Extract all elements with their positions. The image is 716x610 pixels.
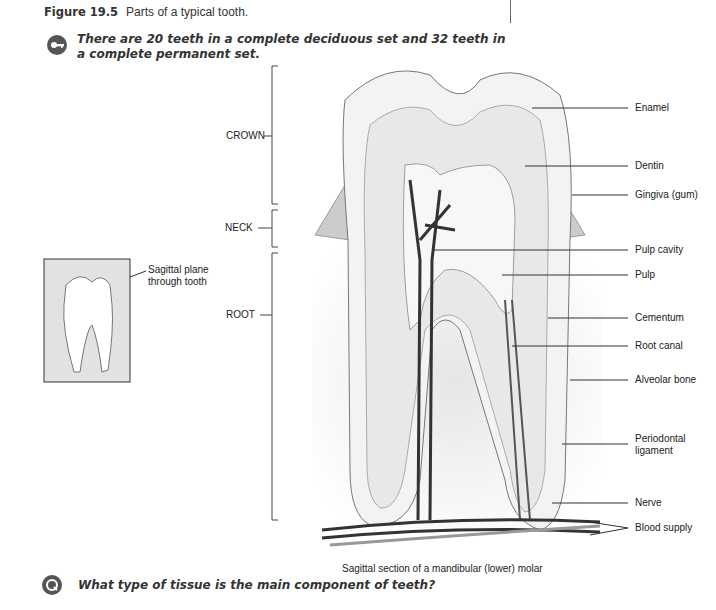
label-alveolar-bone: Alveolar bone <box>635 374 696 385</box>
label-blood-supply: Blood supply <box>635 522 692 533</box>
label-enamel: Enamel <box>635 102 669 113</box>
segment-label-root: ROOT <box>226 309 255 320</box>
label-pulp: Pulp <box>635 269 655 280</box>
label-ligament: ligament <box>635 445 673 456</box>
inset-label-line1: Sagittal plane <box>148 264 209 275</box>
label-nerve: Nerve <box>635 497 662 508</box>
inset-label-line2: through tooth <box>148 276 207 287</box>
label-periodontal: Periodontal <box>635 433 686 444</box>
label-root-canal: Root canal <box>635 340 683 351</box>
segment-label-neck: NECK <box>225 222 253 233</box>
label-dentin: Dentin <box>635 160 664 171</box>
diagram-caption: Sagittal section of a mandibular (lower)… <box>342 563 543 574</box>
segment-label-crown: CROWN <box>226 130 265 141</box>
label-pulp-cavity: Pulp cavity <box>635 244 683 255</box>
question-text: What type of tissue is the main componen… <box>78 578 435 592</box>
tooth-diagram <box>0 0 716 610</box>
label-gingiva: Gingiva (gum) <box>635 189 698 200</box>
question-icon <box>42 575 62 595</box>
label-cementum: Cementum <box>635 312 684 323</box>
